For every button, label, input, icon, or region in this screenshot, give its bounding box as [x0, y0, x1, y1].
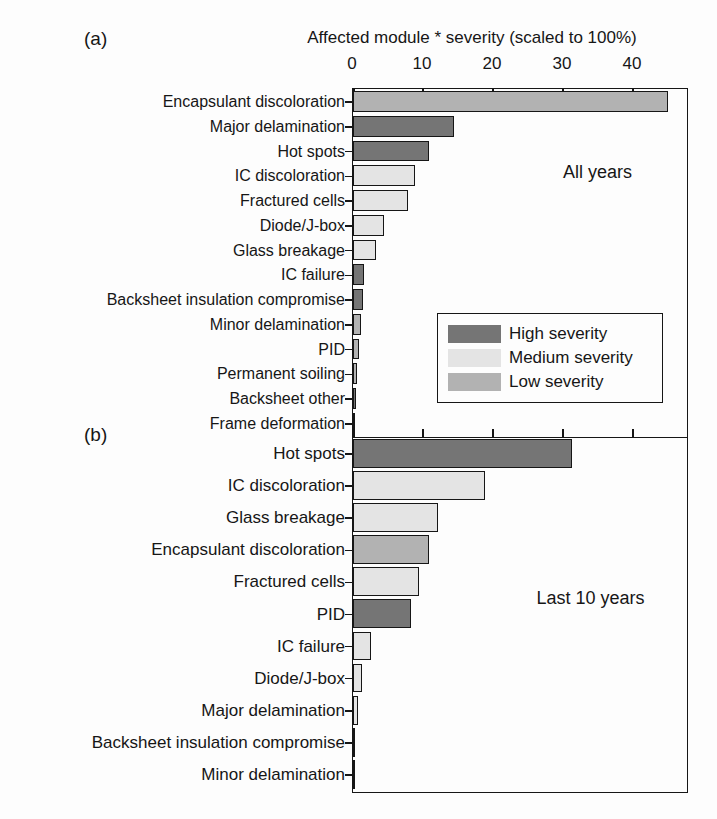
bar-hot-spots: [353, 439, 572, 468]
x-axis-tick-label-30: 30: [545, 54, 579, 74]
category-tick-mark: [345, 582, 352, 584]
category-label: Glass breakage: [0, 241, 345, 261]
category-label: Major delamination: [0, 117, 345, 137]
bar-encapsulant-discoloration: [353, 91, 668, 112]
category-tick-mark: [345, 678, 352, 680]
category-label: Fractured cells: [0, 191, 345, 211]
category-label: Encapsulant discoloration: [0, 92, 345, 112]
category-tick-mark: [345, 485, 352, 487]
bar-ic-failure: [353, 632, 371, 661]
panel-b-annotation: Last 10 years: [523, 588, 658, 609]
category-label: Backsheet other: [0, 389, 345, 409]
panel-b-plot-area: [352, 437, 688, 793]
category-label: Major delamination: [0, 701, 345, 721]
category-tick-mark: [345, 101, 352, 103]
bar-glass-breakage: [353, 240, 376, 261]
category-tick-mark: [345, 299, 352, 301]
category-label: IC failure: [0, 265, 345, 285]
category-tick-mark: [345, 614, 352, 616]
category-tick-mark: [345, 453, 352, 455]
category-tick-mark: [345, 742, 352, 744]
category-tick-mark: [345, 349, 352, 351]
legend-row-high: High severity: [448, 324, 662, 344]
bar-ic-discoloration: [353, 471, 485, 500]
legend-label-medium: Medium severity: [509, 348, 633, 368]
bar-major-delamination: [353, 116, 454, 137]
figure: Affected module * severity (scaled to 10…: [0, 0, 717, 819]
category-tick-mark: [345, 774, 352, 776]
x-axis-tick-label-10: 10: [405, 54, 439, 74]
category-label: Diode/J-box: [0, 669, 345, 689]
category-tick-mark: [345, 423, 352, 425]
bar-ic-failure: [353, 264, 364, 285]
category-label: PID: [0, 605, 345, 625]
panel-a-annotation: All years: [540, 162, 655, 183]
category-tick-mark: [345, 275, 352, 277]
category-label: Encapsulant discoloration: [0, 540, 345, 560]
category-label: PID: [0, 340, 345, 360]
bar-ic-discoloration: [353, 165, 415, 186]
legend-label-high: High severity: [509, 324, 607, 344]
category-tick-mark: [345, 517, 352, 519]
legend-row-low: Low severity: [448, 372, 662, 392]
bar-diode-j-box: [353, 664, 362, 693]
bar-major-delamination: [353, 696, 358, 725]
bar-minor-delamination: [353, 760, 355, 789]
category-label: Minor delamination: [0, 315, 345, 335]
category-tick-mark: [345, 646, 352, 648]
category-label: Frame deformation: [0, 414, 345, 434]
bar-pid: [353, 339, 359, 360]
bar-backsheet-other: [353, 388, 356, 409]
bar-glass-breakage: [353, 503, 438, 532]
bar-permanent-soiling: [353, 363, 357, 384]
low-severity-swatch: [448, 373, 501, 391]
category-label: Backsheet insulation compromise: [0, 290, 345, 310]
severity-legend: High severity Medium severity Low severi…: [437, 313, 663, 403]
category-label: Minor delamination: [0, 765, 345, 785]
bar-backsheet-insulation-compromise: [353, 728, 355, 757]
category-label: Hot spots: [0, 444, 345, 464]
category-label: Hot spots: [0, 142, 345, 162]
legend-label-low: Low severity: [509, 372, 603, 392]
category-tick-mark: [345, 374, 352, 376]
category-tick-mark: [345, 710, 352, 712]
category-tick-mark: [345, 126, 352, 128]
high-severity-swatch: [448, 325, 501, 343]
category-tick-mark: [345, 550, 352, 552]
bar-diode-j-box: [353, 215, 384, 236]
category-label: Fractured cells: [0, 572, 345, 592]
bar-minor-delamination: [353, 314, 361, 335]
legend-row-medium: Medium severity: [448, 348, 662, 368]
bar-backsheet-insulation-compromise: [353, 289, 363, 310]
category-tick-mark: [345, 324, 352, 326]
category-tick-mark: [345, 225, 352, 227]
bar-hot-spots: [353, 141, 429, 162]
bar-fractured-cells: [353, 567, 419, 596]
category-label: Diode/J-box: [0, 216, 345, 236]
category-label: Backsheet insulation compromise: [0, 733, 345, 753]
category-label: Permanent soiling: [0, 364, 345, 384]
x-axis-tick-label-20: 20: [475, 54, 509, 74]
category-label: Glass breakage: [0, 508, 345, 528]
category-label: IC discoloration: [0, 476, 345, 496]
medium-severity-swatch: [448, 349, 501, 367]
category-label: IC failure: [0, 637, 345, 657]
bar-fractured-cells: [353, 190, 408, 211]
axis-title: Affected module * severity (scaled to 10…: [262, 28, 682, 48]
category-tick-mark: [345, 151, 352, 153]
x-axis-tick-label-40: 40: [615, 54, 649, 74]
bar-pid: [353, 599, 411, 628]
category-tick-mark: [345, 176, 352, 178]
category-tick-mark: [345, 398, 352, 400]
panel-a-letter: (a): [84, 28, 107, 50]
bar-encapsulant-discoloration: [353, 535, 429, 564]
bar-frame-deformation: [353, 413, 355, 434]
category-label: IC discoloration: [0, 166, 345, 186]
x-axis-tick-label-0: 0: [335, 54, 369, 74]
category-tick-mark: [345, 250, 352, 252]
category-tick-mark: [345, 200, 352, 202]
